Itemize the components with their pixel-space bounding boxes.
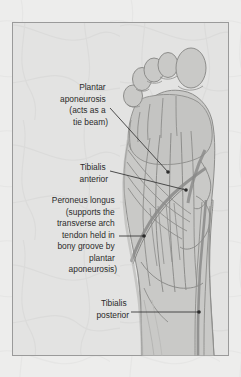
label-line: aponeurosis)	[69, 264, 118, 274]
label-line: aponeurosis	[60, 94, 106, 104]
label-line: Tibialis	[101, 298, 127, 308]
label-line: (acts as a	[69, 105, 106, 115]
label-line: Peroneus longus	[52, 195, 115, 205]
label-line: anterior	[80, 174, 109, 184]
label-tibialis-anterior: Tibialis anterior	[80, 162, 109, 184]
label-line: transverse arch	[57, 218, 115, 228]
label-line: Plantar	[79, 82, 106, 92]
label-line: Tibialis	[80, 162, 106, 172]
label-tibialis-posterior: Tibialis posterior	[96, 298, 129, 320]
toe-1-big	[176, 48, 206, 88]
label-line: plantar	[89, 253, 115, 263]
label-line: bony groove by	[57, 241, 115, 251]
label-line: (supports the	[66, 207, 115, 217]
label-line: tendon held in	[62, 230, 115, 240]
label-line: tie beam)	[73, 117, 108, 127]
toe-2	[158, 53, 178, 78]
anatomy-figure: Plantar aponeurosis (acts as a tie beam)…	[0, 0, 241, 377]
label-line: posterior	[96, 310, 129, 320]
